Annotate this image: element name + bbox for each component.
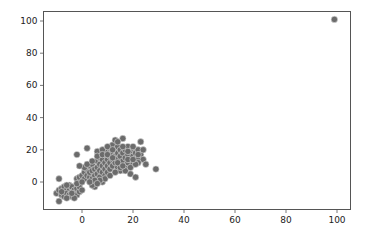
data-point: [153, 166, 159, 172]
data-point: [132, 174, 138, 180]
data-point: [76, 163, 82, 169]
y-tick-label: 60: [26, 80, 38, 90]
data-point: [109, 147, 115, 153]
x-tick-label: 0: [79, 215, 85, 225]
data-point: [130, 143, 136, 149]
data-point: [56, 198, 62, 204]
data-point: [63, 195, 69, 201]
data-point: [58, 189, 64, 195]
x-axis-ticks: 020406080100: [79, 210, 346, 225]
data-point: [140, 147, 146, 153]
data-point: [94, 180, 100, 186]
plot-area: [44, 12, 351, 210]
data-point: [63, 182, 69, 188]
y-tick-label: 0: [32, 177, 38, 187]
y-tick-label: 20: [26, 145, 38, 155]
data-point: [130, 156, 136, 162]
data-point: [115, 139, 121, 145]
y-tick-label: 40: [26, 113, 38, 123]
data-point: [79, 187, 85, 193]
data-point: [79, 179, 85, 185]
data-point: [143, 161, 149, 167]
y-tick-label: 100: [20, 16, 37, 26]
data-point: [87, 179, 93, 185]
x-tick-label: 40: [178, 215, 190, 225]
y-tick-label: 80: [26, 48, 38, 58]
scatter-chart: 020406080100 020406080100: [0, 0, 369, 237]
data-point: [69, 190, 75, 196]
x-tick-label: 20: [127, 215, 139, 225]
data-point: [109, 155, 115, 161]
x-tick-label: 80: [280, 215, 292, 225]
data-point: [120, 163, 126, 169]
x-tick-label: 60: [229, 215, 241, 225]
y-axis-ticks: 020406080100: [20, 16, 43, 187]
data-point: [84, 145, 90, 151]
data-point: [112, 169, 118, 175]
data-point: [89, 158, 95, 164]
data-point: [74, 151, 80, 157]
data-point: [135, 151, 141, 157]
data-point: [56, 176, 62, 182]
data-point: [120, 143, 126, 149]
x-tick-label: 100: [328, 215, 345, 225]
data-point: [138, 139, 144, 145]
data-point: [125, 148, 131, 154]
data-point: [331, 16, 337, 22]
